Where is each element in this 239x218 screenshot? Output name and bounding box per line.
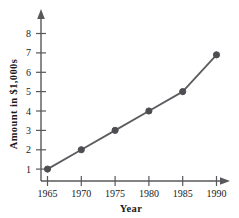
x-axis [41,177,230,185]
x-tick-label: 1990 [207,188,227,199]
x-tick-label: 1970 [71,188,91,199]
y-tick-label: 6 [26,67,31,78]
y-tick-label: 4 [26,106,31,117]
x-axis-title: Year [120,203,143,214]
data-point [213,52,219,58]
y-axis-arrow-icon [37,9,45,19]
line-chart: 8 7 6 5 4 3 2 1 1965 1970 1975 1980 1985… [0,0,239,218]
x-tick-labels: 1965 1970 1975 1980 1985 1990 [38,188,227,199]
y-axis [37,9,45,181]
data-point [112,127,118,133]
x-tick-label: 1965 [38,188,58,199]
chart-canvas: 8 7 6 5 4 3 2 1 1965 1970 1975 1980 1985… [0,0,239,218]
data-point [146,108,152,114]
x-tick-label: 1980 [139,188,159,199]
series-line [48,55,217,169]
x-tick-label: 1985 [173,188,193,199]
data-series [44,52,219,172]
data-point [78,147,84,153]
y-tick-label: 1 [26,164,31,175]
y-tick-label: 8 [26,28,31,39]
y-tick-labels: 8 7 6 5 4 3 2 1 [26,28,31,175]
y-axis-title: Amount in $1,000s [8,59,19,150]
x-tick-label: 1975 [105,188,125,199]
data-point [44,166,50,172]
series-markers [44,52,219,172]
y-tick-label: 3 [26,125,31,136]
data-point [180,89,186,95]
x-axis-arrow-icon [220,177,230,185]
y-tick-label: 7 [26,47,31,58]
y-tick-label: 5 [26,86,31,97]
y-tick-label: 2 [26,144,31,155]
